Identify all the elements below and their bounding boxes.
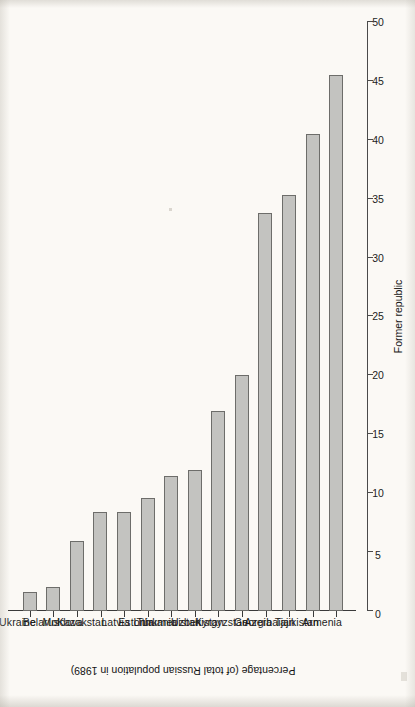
bar-rect [235,375,249,611]
plot-area: UkraineBelarusMoldovaKazakstanLatviaEsto… [18,22,348,611]
bar-rect [117,512,131,611]
bar-rect [188,470,202,611]
bar-rect [258,213,272,611]
bar-armenia [324,75,348,611]
value-tick-label: 0 [375,608,381,620]
value-tick-label: 25 [372,311,384,323]
value-tick-label: 5 [375,549,381,561]
category-label: Kazakstan [57,616,107,628]
bar-uzbekistan [207,411,231,611]
value-axis-spine [367,22,368,611]
bar-kazakstan [89,512,113,611]
category-label: Armenia [302,616,342,628]
bar-rect [306,134,320,611]
scanned-figure-page: Percentage (of total Russian population … [0,0,415,707]
bar-rect [164,476,178,611]
value-tick [367,610,373,611]
bar-moldova [65,542,89,612]
bar-ukraine [18,592,42,611]
bar-belarus [42,587,66,611]
bar-rect [141,498,155,611]
bar-rect [93,512,107,611]
bar-rect [211,411,225,611]
category-axis-title: Former republic [392,22,404,611]
value-tick-label: 20 [372,370,384,382]
value-tick [367,551,373,552]
bar-georgia [254,213,278,611]
bar-rect [70,542,84,612]
bar-rect [46,587,60,611]
value-tick-label: 30 [372,252,384,264]
bar-turkmenistan [183,470,207,611]
value-tick-label: 35 [372,193,384,205]
bar-rect [329,75,343,611]
value-tick-label: 45 [372,75,384,87]
value-tick-label: 10 [372,487,384,499]
value-tick-label: 15 [372,428,384,440]
value-tick-label: 50 [372,16,384,28]
bar-azerbaijan [277,195,301,611]
bar-latvia [112,512,136,611]
bar-rect [23,592,37,611]
value-axis-title: Percentage (of total Russian population … [18,665,348,677]
bar-kyrgyzstan [230,375,254,611]
bar-lithuania [159,476,183,611]
bar-estonia [136,498,160,611]
value-tick-label: 40 [372,134,384,146]
bar-tajikistan [301,134,325,611]
chart-stage: Percentage (of total Russian population … [0,0,415,707]
bar-rect [282,195,296,611]
